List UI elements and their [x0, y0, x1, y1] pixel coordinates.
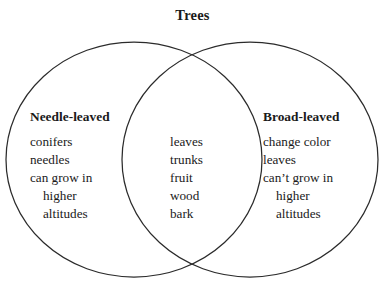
list-item: altitudes: [263, 205, 339, 223]
list-item: bark: [170, 205, 203, 223]
venn-diagram: Trees Needle-leaved conifers needles can…: [0, 0, 385, 292]
left-set-text-block: Needle-leaved conifers needles can grow …: [30, 108, 110, 223]
right-set-text-block: Broad-leaved change color leaves can’t g…: [263, 108, 339, 223]
intersection-list: leaves trunks fruit wood bark: [170, 133, 203, 223]
left-set-list: conifers needles can grow in higher alti…: [30, 133, 110, 223]
list-item: wood: [170, 187, 203, 205]
right-set-list: change color leaves can’t grow in higher…: [263, 133, 339, 223]
list-item: can’t grow in: [263, 169, 339, 187]
list-item: can grow in: [30, 169, 110, 187]
list-item: leaves: [170, 133, 203, 151]
list-item: needles: [30, 151, 110, 169]
list-item: trunks: [170, 151, 203, 169]
intersection-text-block: leaves trunks fruit wood bark: [170, 133, 203, 223]
right-set-circle: [122, 42, 378, 277]
list-item: change color: [263, 133, 339, 151]
list-item: higher: [263, 187, 339, 205]
list-item: conifers: [30, 133, 110, 151]
list-item: higher: [30, 187, 110, 205]
right-set-heading: Broad-leaved: [263, 108, 339, 126]
list-item: altitudes: [30, 205, 110, 223]
list-item: leaves: [263, 151, 339, 169]
list-item: fruit: [170, 169, 203, 187]
left-set-heading: Needle-leaved: [30, 108, 110, 126]
